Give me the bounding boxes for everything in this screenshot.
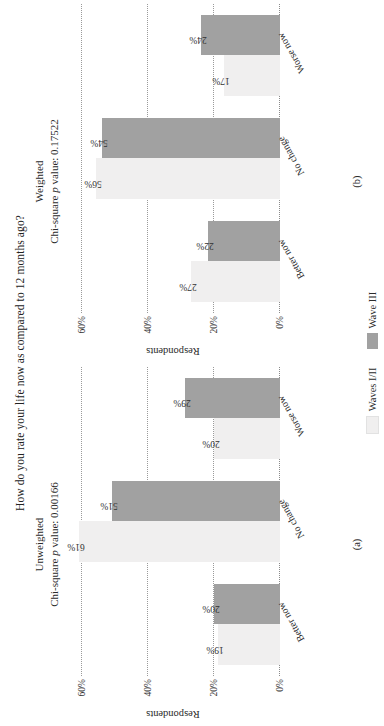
panel-b-pvalue-prefix: Chi-square (48, 193, 60, 244)
panel-b-bar-better-wave3: 22% (208, 221, 280, 261)
panel-a-xlabel-better-text: Better now (275, 600, 307, 644)
panel-b-bar-nochange-waves12: 56% (96, 159, 280, 199)
panel-b: Weighted Chi-square p value: 0.17522 Res… (26, 0, 356, 363)
panel-a: Unweighted Chi-square p value: 0.00166 R… (26, 363, 356, 726)
panel-b-y-ticks: 0% 20% 40% 60% (66, 313, 280, 343)
panel-b-group-better-now: 27% 22% (66, 221, 280, 301)
legend-label-waves-1-2: Waves I/II (367, 368, 378, 412)
panel-a-tag: (a) (351, 539, 362, 551)
panel-b-y-axis-title-text: Respondents (146, 346, 200, 357)
panel-b-pvalue-suffix: value: 0.17522 (48, 119, 60, 187)
panel-b-plotrow: Respondents 0% 20% 40% 60% (66, 4, 280, 359)
legend: Waves I/II Wave III (358, 0, 384, 726)
panel-b-bar-better-waves12: 27% (191, 262, 280, 302)
panel-b-ytick-0: 0% (275, 316, 285, 329)
panel-a-pvalue-symbol: p (48, 550, 60, 556)
panel-b-y-axis-title: Respondents (66, 343, 280, 359)
panel-a-xlabel-better: Better now (280, 584, 334, 664)
panel-a-ytick-60: 60% (77, 679, 87, 696)
panel-a-ytick-40: 40% (143, 679, 153, 696)
panel-a-pvalue-suffix: value: 0.00166 (48, 482, 60, 550)
panel-b-subtitle: Weighted (32, 4, 47, 359)
panel-b-group-no-change: 56% 54% (66, 118, 280, 198)
panel-a-subtitle: Unweighted (32, 367, 47, 722)
panel-b-xlabel-worse-text: Worse now (275, 31, 307, 75)
panel-b-header: Weighted Chi-square p value: 0.17522 (26, 4, 66, 359)
panel-b-bar-worse-waves12: 17% (224, 56, 280, 96)
legend-item-wave-3: Wave III (367, 292, 378, 350)
panel-b-ytick-40: 40% (143, 316, 153, 333)
panel-a-pvalue: Chi-square p value: 0.00166 (47, 367, 62, 722)
panel-a-bar-worse-wave3: 29% (185, 378, 280, 418)
panel-b-xlabel-nochange-text: No change (275, 134, 306, 177)
panel-b-value-nochange-waves12: 56% (84, 179, 101, 189)
figure: How do you rate your life now as compare… (0, 0, 384, 726)
panel-a-bar-better-waves12: 19% (218, 625, 280, 665)
legend-swatch-wave-3 (367, 334, 378, 350)
panel-a-bars: 19% 20% 61% 51% 20% 29% (66, 367, 280, 676)
panel-b-xlabel-better: Better now (280, 221, 334, 301)
panel-b-xlabel-better-text: Better now (275, 237, 307, 281)
panel-a-plotrow: Respondents 0% 20% 40% 60% (66, 367, 280, 722)
panel-a-group-no-change: 61% 51% (66, 481, 280, 561)
panel-a-bar-nochange-wave3: 51% (112, 481, 280, 521)
panel-a-xlabel-nochange: No change (280, 481, 334, 561)
panel-a-value-better-waves12: 19% (206, 645, 223, 655)
panel-b-value-better-waves12: 27% (179, 282, 196, 292)
panel-b-plot-area: 27% 22% 56% 54% 17% 24% (66, 4, 280, 313)
panel-a-y-axis-title: Respondents (66, 706, 280, 722)
rotated-figure-wrapper: How do you rate your life now as compare… (0, 0, 384, 726)
panel-a-bar-worse-waves12: 20% (214, 419, 280, 459)
panel-b-x-labels: Better now No change Worse now (280, 4, 334, 313)
panel-a-plot-area: 19% 20% 61% 51% 20% 29% (66, 367, 280, 676)
panel-b-tag: (b) (351, 175, 362, 187)
panel-b-xlabel-nochange: No change (280, 118, 334, 198)
panel-a-x-labels: Better now No change Worse now (280, 367, 334, 676)
legend-swatch-waves-1-2 (366, 416, 379, 434)
panel-b-bar-nochange-wave3: 54% (102, 118, 280, 158)
figure-title: How do you rate your life now as compare… (14, 0, 26, 726)
panel-a-pvalue-prefix: Chi-square (48, 556, 60, 607)
panel-a-y-ticks: 0% 20% 40% 60% (66, 676, 280, 706)
panel-b-bar-worse-wave3: 24% (201, 15, 280, 55)
panel-a-bar-nochange-waves12: 61% (79, 522, 280, 562)
panel-a-value-worse-wave3: 29% (173, 398, 190, 408)
legend-item-waves-1-2: Waves I/II (366, 368, 379, 435)
panel-a-ytick-0: 0% (275, 679, 285, 692)
panel-b-ytick-20: 20% (209, 316, 219, 333)
panel-b-value-worse-wave3: 24% (189, 35, 206, 45)
panel-a-xlabel-nochange-text: No change (275, 497, 306, 540)
panel-b-value-nochange-wave3: 54% (90, 138, 107, 148)
panel-a-y-axis-title-text: Respondents (146, 709, 200, 720)
panel-b-group-worse-now: 17% 24% (66, 15, 280, 95)
panel-b-value-worse-waves12: 17% (212, 76, 229, 86)
panel-a-group-worse-now: 20% 29% (66, 378, 280, 458)
panel-b-xlabel-worse: Worse now (280, 15, 334, 95)
panel-b-value-better-wave3: 22% (196, 241, 213, 251)
legend-label-wave-3: Wave III (367, 292, 378, 329)
panel-container: Unweighted Chi-square p value: 0.00166 R… (26, 0, 356, 726)
panel-b-pvalue-symbol: p (48, 187, 60, 193)
panel-a-value-better-wave3: 20% (202, 604, 219, 614)
panel-a-value-nochange-waves12: 61% (68, 542, 85, 552)
panel-a-value-nochange-wave3: 51% (100, 501, 117, 511)
panel-b-ytick-60: 60% (77, 316, 87, 333)
panel-b-pvalue: Chi-square p value: 0.17522 (47, 4, 62, 359)
panel-a-xlabel-worse-text: Worse now (275, 394, 307, 438)
panel-a-bar-better-wave3: 20% (214, 584, 280, 624)
panel-a-ytick-20: 20% (209, 679, 219, 696)
panel-a-xlabel-worse: Worse now (280, 378, 334, 458)
panel-b-bars: 27% 22% 56% 54% 17% 24% (66, 4, 280, 313)
panel-a-value-worse-waves12: 20% (202, 439, 219, 449)
panel-a-group-better-now: 19% 20% (66, 584, 280, 664)
panel-a-header: Unweighted Chi-square p value: 0.00166 (26, 367, 66, 722)
